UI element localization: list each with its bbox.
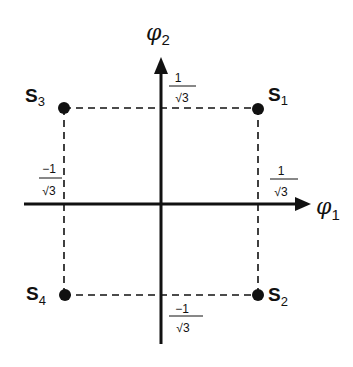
state-point-s4 bbox=[59, 289, 71, 301]
arrowhead-right-icon bbox=[295, 197, 311, 211]
svg-text:√3: √3 bbox=[176, 321, 190, 335]
state-label-s2: S2 bbox=[268, 284, 288, 309]
svg-text:√3: √3 bbox=[175, 91, 189, 105]
state-point-s2 bbox=[252, 289, 264, 301]
state-label-s3: S3 bbox=[25, 85, 45, 109]
state-label-s1: S1 bbox=[268, 84, 288, 108]
svg-text:1: 1 bbox=[175, 71, 182, 85]
state-point-s1 bbox=[252, 103, 264, 115]
tick-label-x-positive: 1 √3 bbox=[270, 164, 298, 199]
phi2-axis-label: φ2 bbox=[146, 20, 170, 48]
state-point-s3 bbox=[58, 102, 70, 114]
svg-text:−1: −1 bbox=[42, 162, 56, 176]
svg-text:√3: √3 bbox=[274, 185, 288, 199]
tick-label-x-negative: −1 √3 bbox=[39, 162, 62, 198]
state-label-s4: S4 bbox=[26, 283, 46, 308]
phi2-axis bbox=[154, 57, 168, 344]
svg-text:√3: √3 bbox=[42, 184, 56, 198]
svg-text:1: 1 bbox=[278, 164, 285, 178]
arrowhead-up-icon bbox=[154, 57, 168, 74]
phi1-axis-label: φ1 bbox=[316, 194, 340, 223]
tick-label-y-negative: −1 √3 bbox=[169, 302, 203, 335]
signal-constellation-diagram: φ2 φ1 S1 S2 S3 S4 1 √3 −1 √3 −1 √3 1 √3 bbox=[0, 0, 353, 367]
phi1-axis bbox=[24, 197, 311, 211]
svg-text:−1: −1 bbox=[175, 302, 189, 316]
tick-label-y-positive: 1 √3 bbox=[169, 71, 196, 105]
